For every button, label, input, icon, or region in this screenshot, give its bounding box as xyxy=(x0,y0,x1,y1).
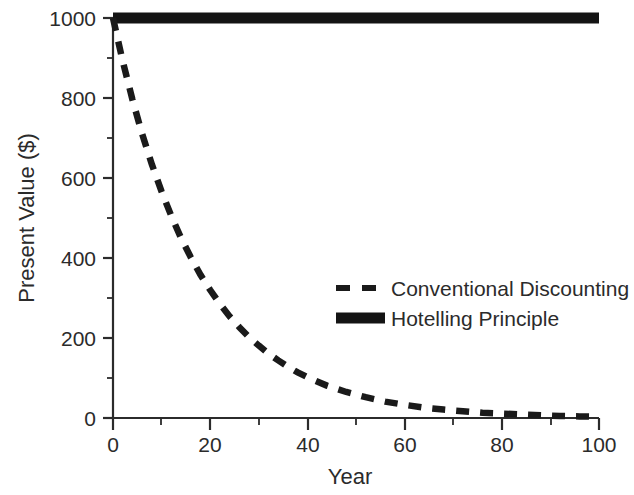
legend-label-hotelling-principle: Hotelling Principle xyxy=(391,307,559,330)
plot-area-background xyxy=(113,18,599,418)
x-tick-label-60: 60 xyxy=(393,433,416,456)
present-value-line-chart: 1000 800 600 400 200 0 Present Value ($) xyxy=(0,0,634,495)
y-tick-label-400: 400 xyxy=(61,247,96,270)
x-axis: 0 20 40 60 80 100 Year xyxy=(107,418,616,489)
legend-label-conventional-discounting: Conventional Discounting xyxy=(391,277,629,300)
y-axis: 1000 800 600 400 200 0 Present Value ($) xyxy=(14,7,113,430)
x-tick-label-40: 40 xyxy=(296,433,319,456)
y-tick-label-800: 800 xyxy=(61,87,96,110)
y-axis-title: Present Value ($) xyxy=(14,133,39,303)
x-axis-title: Year xyxy=(328,464,372,489)
y-tick-label-1000: 1000 xyxy=(49,7,96,30)
y-tick-label-600: 600 xyxy=(61,167,96,190)
y-tick-label-200: 200 xyxy=(61,327,96,350)
x-tick-label-0: 0 xyxy=(107,433,119,456)
x-tick-label-80: 80 xyxy=(490,433,513,456)
chart-figure: 1000 800 600 400 200 0 Present Value ($) xyxy=(0,0,634,495)
x-tick-label-20: 20 xyxy=(198,433,221,456)
x-tick-label-100: 100 xyxy=(581,433,616,456)
y-tick-label-0: 0 xyxy=(84,407,96,430)
